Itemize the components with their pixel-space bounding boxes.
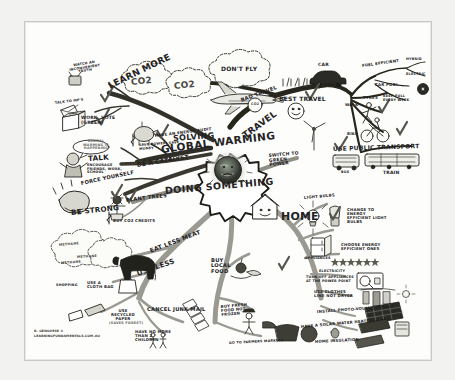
- wind-turbine-icon: [304, 121, 325, 150]
- eraser-icon: [69, 304, 105, 321]
- node-use-clothes-line-not-dryer[interactable]: USE CLOTHES LINE NOT DRYER: [314, 290, 356, 298]
- mind-map-frame: SOLVING GLOBAL WARMING DOING SOMETHING L…: [24, 21, 432, 361]
- node-co2-badge[interactable]: CO2: [251, 103, 259, 107]
- node-bus[interactable]: BUS: [341, 171, 349, 175]
- power-point-icon: [357, 273, 383, 289]
- water-drop-icon: [331, 328, 339, 338]
- node-have-no-more-than-2-children[interactable]: HAVE NO MORE THAN 2 CHILDREN: [135, 330, 175, 342]
- node-car[interactable]: CAR: [318, 63, 329, 68]
- node-walk[interactable]: WALK: [345, 103, 358, 107]
- node-dont-fly[interactable]: DON'T FLY: [221, 66, 257, 72]
- node-appliances[interactable]: APPLIANCES: [305, 257, 331, 261]
- node-bike[interactable]: BIKE: [347, 132, 358, 136]
- node-work-vote-green[interactable]: WORK, VOTE (GREEN): [81, 116, 121, 125]
- branch-label-home[interactable]: HOME: [281, 211, 319, 222]
- credit-line-website: LEARNINGFUNDAMENTALS.COM.AU: [34, 334, 100, 339]
- node-saves-forest[interactable]: (SAVES FOREST): [109, 322, 143, 326]
- node-electricity[interactable]: ELECTRICITY: [319, 270, 345, 274]
- bicycle-icon: [361, 118, 389, 142]
- fridge-icon: [311, 235, 331, 256]
- node-electric[interactable]: ELECTRIC: [406, 73, 426, 77]
- house-icon: [251, 194, 279, 219]
- node-keep-full-every-week[interactable]: KEEP FULL EVERY WEEK: [383, 95, 416, 102]
- star-rating-icon: [331, 258, 380, 266]
- poster-background: SOLVING GLOBAL WARMING DOING SOMETHING L…: [0, 0, 455, 380]
- airplane-icon: [209, 49, 285, 114]
- train-icon: [365, 154, 419, 169]
- branch-label-talk[interactable]: TALK: [88, 154, 109, 163]
- walking-person-icon: [362, 103, 376, 123]
- node-use-recycled-paper[interactable]: USE RECYCLED PAPER: [107, 309, 139, 321]
- node-change-to-energy-efficient-light-bulbs[interactable]: CHANGE TO ENERGY EFFICIENT LIGHT BULBS: [347, 208, 389, 224]
- car-icon: [310, 71, 346, 88]
- branch-label-best-travel[interactable]: BEST TRAVEL: [279, 96, 326, 102]
- node-hybrid[interactable]: HYBRID: [406, 58, 422, 62]
- tyre-icon: [418, 84, 429, 95]
- bus-icon: [333, 155, 359, 170]
- node-shopping[interactable]: SHOPPING: [56, 284, 78, 288]
- node-car-pool[interactable]: CAR POOL: [375, 83, 399, 87]
- insulation-icon: [355, 335, 384, 348]
- node-cancel-junk-mail[interactable]: CANCEL JUNK MAIL: [147, 307, 206, 312]
- credit-block: R. GENOVESE © LEARNINGFUNDAMENTALS.COM.A…: [34, 329, 100, 339]
- letters-icon: [183, 299, 209, 331]
- node-use-a-cloth-bag[interactable]: USE A CLOTH BAG: [87, 281, 117, 289]
- node-turn-off-appliances-at-the-power-point[interactable]: TURN OFF APPLIANCES AT THE POWER POINT: [306, 276, 354, 283]
- node-tyres[interactable]: TYRES: [363, 96, 378, 100]
- branch-label-buy-local-food[interactable]: BUY LOCAL FOOD: [211, 258, 241, 274]
- node-global-warming-is-happening[interactable]: GLOBAL WARMING IS HAPPENING: [79, 140, 113, 151]
- mind-map-canvas: SOLVING GLOBAL WARMING DOING SOMETHING L…: [25, 22, 431, 360]
- node-choose-energy-efficient-ones[interactable]: CHOOSE ENERGY EFFICIENT ONES: [341, 243, 381, 251]
- node-train[interactable]: TRAIN: [383, 171, 399, 176]
- grass-icon: [283, 78, 307, 86]
- node-buy-co2-credits[interactable]: BUY CO2 CREDITS: [113, 219, 155, 223]
- smiley-icon: [288, 103, 304, 119]
